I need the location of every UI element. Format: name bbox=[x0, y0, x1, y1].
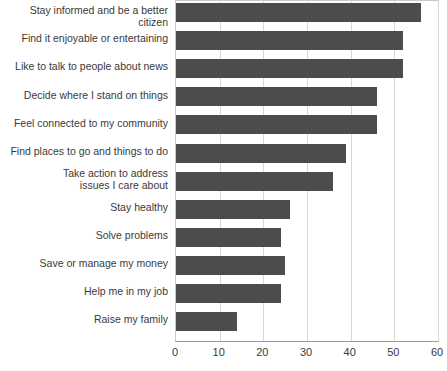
bar bbox=[176, 59, 403, 78]
bar bbox=[176, 284, 281, 303]
bar bbox=[176, 228, 281, 247]
category-label: Solve problems bbox=[0, 230, 168, 242]
category-label: Decide where I stand on things bbox=[0, 90, 168, 102]
category-label: Take action to address issues I care abo… bbox=[0, 168, 168, 191]
bar bbox=[176, 115, 377, 134]
x-tick-label: 10 bbox=[213, 346, 225, 358]
x-tick-label: 30 bbox=[300, 346, 312, 358]
gridline-60 bbox=[438, 1, 439, 341]
x-tick-label: 60 bbox=[431, 346, 443, 358]
bar bbox=[176, 144, 346, 163]
value-axis: 0102030405060 bbox=[175, 342, 437, 366]
gridline-40 bbox=[351, 1, 352, 341]
category-axis-labels: Stay informed and be a better citizenFin… bbox=[0, 0, 172, 340]
category-label: Stay informed and be a better citizen bbox=[0, 5, 168, 28]
x-tick-label: 0 bbox=[172, 346, 178, 358]
gridline-50 bbox=[394, 1, 395, 341]
plot-area bbox=[175, 0, 439, 342]
category-label: Raise my family bbox=[0, 314, 168, 326]
bar bbox=[176, 200, 290, 219]
category-label: Find places to go and things to do bbox=[0, 146, 168, 158]
bar bbox=[176, 3, 421, 22]
x-tick-label: 20 bbox=[256, 346, 268, 358]
category-label: Stay healthy bbox=[0, 202, 168, 214]
category-label: Like to talk to people about news bbox=[0, 61, 168, 73]
x-tick-label: 40 bbox=[344, 346, 356, 358]
bar-chart: Stay informed and be a better citizenFin… bbox=[0, 0, 447, 371]
bar bbox=[176, 31, 403, 50]
category-label: Feel connected to my community bbox=[0, 118, 168, 130]
bar bbox=[176, 172, 333, 191]
x-tick-label: 50 bbox=[387, 346, 399, 358]
bar bbox=[176, 87, 377, 106]
bar bbox=[176, 256, 285, 275]
category-label: Save or manage my money bbox=[0, 258, 168, 270]
category-label: Help me in my job bbox=[0, 286, 168, 298]
category-label: Find it enjoyable or entertaining bbox=[0, 33, 168, 45]
bar bbox=[176, 312, 237, 331]
